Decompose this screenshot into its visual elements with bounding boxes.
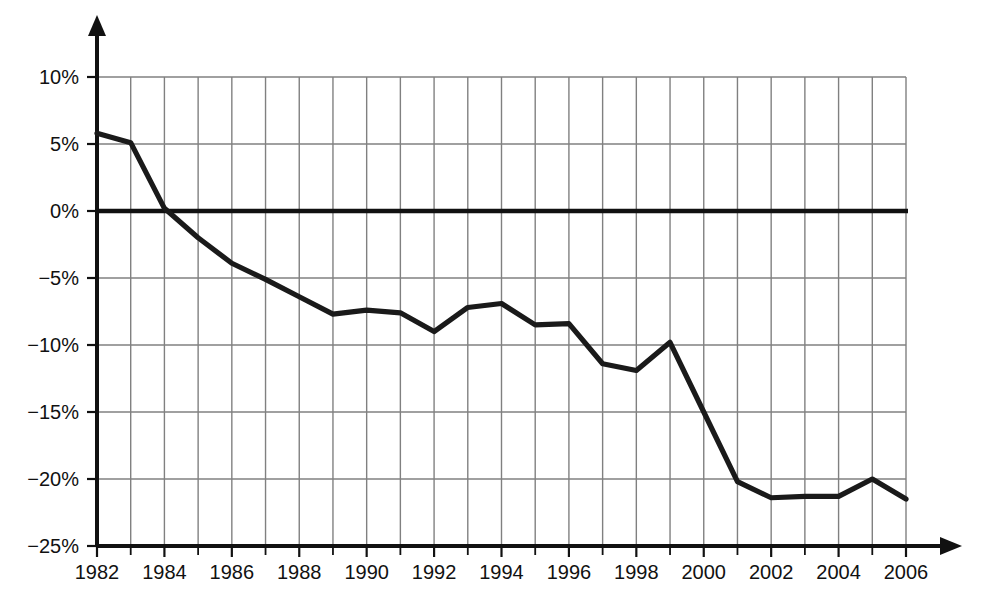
x-tick-label: 2002 <box>749 561 794 583</box>
x-tick-label: 2000 <box>682 561 727 583</box>
x-tick-label: 1996 <box>547 561 592 583</box>
x-tick-label: 1990 <box>344 561 389 583</box>
x-tick-label: 2006 <box>884 561 929 583</box>
x-tick-label: 1986 <box>210 561 255 583</box>
x-tick-label: 1992 <box>412 561 457 583</box>
y-tick-label: 5% <box>50 133 79 155</box>
x-tick-label: 1994 <box>479 561 524 583</box>
y-tick-label: −25% <box>27 535 79 557</box>
y-tick-label: −20% <box>27 468 79 490</box>
y-tick-label: 10% <box>39 66 79 88</box>
line-chart: 10%5%0%−5%−10%−15%−20%−25% 1982198419861… <box>0 0 981 603</box>
x-tick-label: 2004 <box>816 561 861 583</box>
x-tick-label: 1982 <box>75 561 120 583</box>
chart-container: 10%5%0%−5%−10%−15%−20%−25% 1982198419861… <box>0 0 981 603</box>
y-tick-label: −10% <box>27 334 79 356</box>
x-tick-label: 1998 <box>614 561 659 583</box>
y-tick-label: 0% <box>50 200 79 222</box>
y-tick-label: −5% <box>38 267 79 289</box>
x-tick-label: 1984 <box>142 561 187 583</box>
y-tick-label: −15% <box>27 401 79 423</box>
chart-background <box>0 0 981 603</box>
x-tick-label: 1988 <box>277 561 322 583</box>
